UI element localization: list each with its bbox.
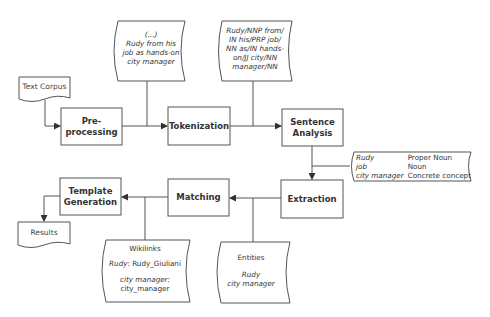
- connector-corpus-to-preprocessing: [45, 100, 60, 126]
- wikilink-target: Rudy_Giuliani: [132, 259, 181, 268]
- wikilink-term: Rudy: [109, 259, 127, 268]
- preprocessing-step: Pre- processing: [61, 108, 122, 145]
- entities-title: Entities: [215, 253, 287, 262]
- pos-term: city manager: [356, 171, 408, 180]
- entity-item: Rudy: [215, 270, 287, 279]
- sentence-analysis-label-line2: Analysis: [293, 128, 333, 138]
- extraction-step: Extraction: [281, 180, 343, 218]
- tagged-text-line: Rudy/NNP from/: [218, 26, 292, 35]
- pos-classification-note: Rudy Proper Noun job Noun city manager C…: [356, 153, 475, 180]
- tagged-text-line: manager/NN: [218, 62, 292, 71]
- pos-row: city manager Concrete concept: [356, 171, 475, 180]
- tokenization-step: Tokenization: [168, 107, 230, 145]
- tagged-text-line: IN his/PRP job/: [218, 35, 292, 44]
- sentence-analysis-step: Sentence Analysis: [282, 109, 343, 146]
- entities-note: Entities Rudy city manager: [215, 253, 287, 288]
- raw-text-note: (...) Rudy from his job as hands-on city…: [116, 30, 186, 66]
- raw-text-line: city manager: [116, 57, 186, 66]
- results-label: Results: [18, 223, 70, 241]
- pos-row: Rudy Proper Noun: [356, 153, 475, 162]
- tagged-text-line: NN as/IN hands-: [218, 44, 292, 53]
- tagged-text-line: on/JJ city/NN: [218, 53, 292, 62]
- template-generation-label-line1: Template: [69, 186, 113, 196]
- matching-label: Matching: [176, 192, 220, 202]
- raw-text-line: (...): [116, 30, 186, 39]
- wikilink-entry: city manager:: [100, 275, 190, 284]
- pos-type: Noun: [408, 162, 475, 171]
- pos-type: Concrete concept: [408, 171, 475, 180]
- preprocessing-label-line2: processing: [65, 127, 117, 137]
- pos-term: Rudy: [356, 153, 408, 162]
- tokenization-label: Tokenization: [169, 121, 229, 131]
- connector-template-to-results: [44, 196, 60, 221]
- template-generation-step: Template Generation: [60, 178, 121, 215]
- wikilink-entry: Rudy: Rudy_Giuliani: [100, 259, 190, 268]
- wikilinks-title: Wikilinks: [100, 244, 190, 253]
- preprocessing-label-line1: Pre-: [82, 116, 102, 126]
- tagged-text-note: Rudy/NNP from/ IN his/PRP job/ NN as/IN …: [218, 26, 292, 71]
- pos-term: job: [356, 162, 408, 171]
- wikilinks-note: Wikilinks Rudy: Rudy_Giuliani city manag…: [100, 244, 190, 293]
- wikilink-target: city_manager: [100, 284, 190, 293]
- template-generation-label-line2: Generation: [64, 197, 117, 207]
- pos-type: Proper Noun: [408, 153, 475, 162]
- entity-item: city manager: [215, 279, 287, 288]
- raw-text-line: Rudy from his: [116, 39, 186, 48]
- matching-step: Matching: [168, 179, 229, 216]
- extraction-label: Extraction: [287, 194, 336, 204]
- raw-text-line: job as hands-on: [116, 48, 186, 57]
- pos-row: job Noun: [356, 162, 475, 171]
- text-corpus-label: Text Corpus: [19, 78, 70, 95]
- sentence-analysis-label-line1: Sentence: [290, 117, 335, 127]
- wikilink-term: city manager: [120, 275, 168, 284]
